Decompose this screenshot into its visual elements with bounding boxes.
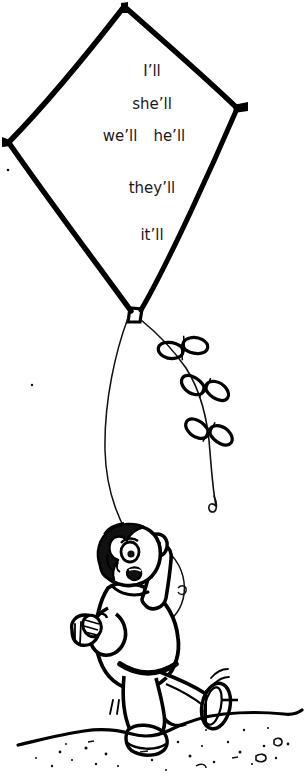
boy-figure [72, 523, 238, 755]
kite-word-well: we’ll [103, 127, 138, 145]
kite-tail-string [141, 320, 216, 506]
kite-word-line-2: she’ll [0, 97, 304, 112]
kite-word-line-4: they’ll [0, 181, 304, 196]
kite-word-line-1: I’ll [0, 64, 304, 79]
kite-tail [141, 320, 233, 512]
kite-edge-upper-right [126, 8, 237, 108]
ink-speck [31, 384, 33, 386]
kite-word-hell: he’ll [153, 127, 185, 145]
kite-edge-lower-left [9, 143, 131, 311]
kite-body [2, 2, 248, 322]
kite-word-line-3: we’llhe’ll [0, 129, 304, 144]
boy-pupil [127, 550, 134, 557]
kite-string-main [105, 318, 140, 551]
boy-rear-shoe [198, 681, 238, 732]
illustration-canvas: I’ll she’ll we’llhe’ll they’ll it’ll [0, 0, 304, 784]
ink-speck [7, 169, 10, 172]
kite-word-line-5: it’ll [0, 228, 304, 243]
motion-lines [110, 700, 119, 714]
kite-illustration-art [0, 0, 304, 784]
kite-tail-bow [181, 370, 229, 405]
